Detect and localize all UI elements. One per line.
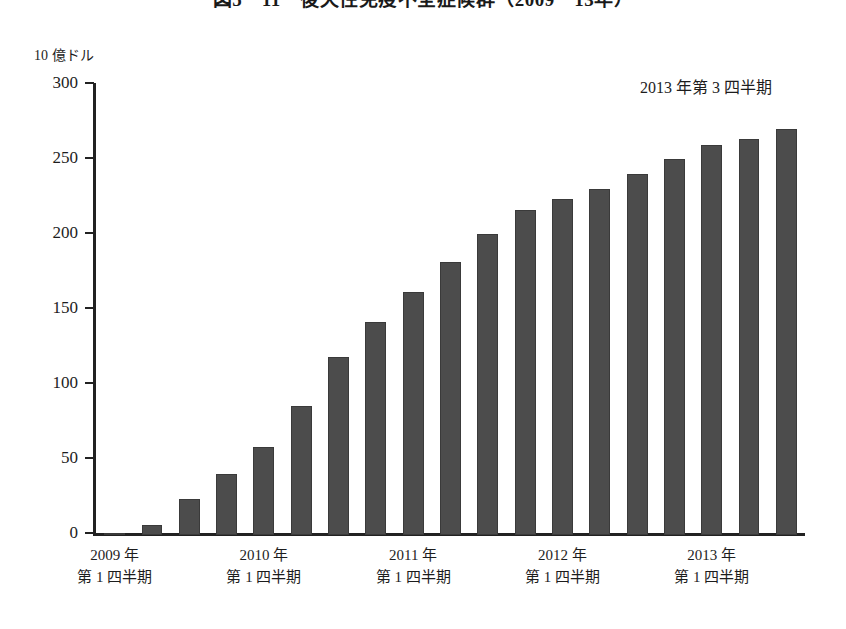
bar [515, 210, 536, 536]
bar-series [96, 83, 805, 535]
x-axis-group-label: 2010 年第 1 四半期 [189, 545, 339, 589]
y-axis-unit-label: 10 億ドル [34, 44, 94, 64]
y-axis-tick-label: 200 [16, 224, 78, 241]
bar [739, 139, 760, 535]
y-axis-tick-label: 300 [16, 74, 78, 91]
x-axis-year-label: 2011 年 [338, 545, 488, 567]
x-axis-year-label: 2010 年 [189, 545, 339, 567]
x-axis-quarter-label: 第 1 四半期 [40, 567, 190, 589]
annotation-last-quarter: 2013 年第 3 四半期 [640, 74, 772, 98]
x-axis-quarter-label: 第 1 四半期 [189, 567, 339, 589]
bar [440, 262, 461, 535]
bar [253, 447, 274, 536]
bar [142, 525, 163, 536]
y-axis-tick-label: 50 [16, 449, 78, 466]
x-axis-year-label: 2009 年 [40, 545, 190, 567]
chart-title: 図5－11 後天性免疫不全症候群（2009－13年） [0, 0, 846, 11]
x-axis-quarter-label: 第 1 四半期 [487, 567, 637, 589]
y-axis-tick-label: 250 [16, 149, 78, 166]
bar [701, 145, 722, 535]
bar [589, 189, 610, 536]
chart-figure: 図5－11 後天性免疫不全症候群（2009－13年） 10 億ドル 050100… [0, 0, 846, 629]
x-axis-group-label: 2009 年第 1 四半期 [40, 545, 190, 589]
x-axis-year-label: 2013 年 [637, 545, 787, 567]
bar [365, 322, 386, 535]
bar [627, 174, 648, 536]
x-axis-quarter-label: 第 1 四半期 [338, 567, 488, 589]
bar [477, 234, 498, 536]
y-axis-tick-label: 150 [16, 299, 78, 316]
y-axis-tick-label: 0 [16, 524, 78, 541]
bar [179, 499, 200, 535]
x-axis-group-label: 2013 年第 1 四半期 [637, 545, 787, 589]
x-axis-quarter-label: 第 1 四半期 [637, 567, 787, 589]
bar [104, 533, 125, 535]
bar [776, 129, 797, 536]
bar [403, 292, 424, 535]
bar [552, 199, 573, 535]
bar [216, 474, 237, 536]
y-axis-tick-label: 100 [16, 374, 78, 391]
bar [291, 406, 312, 535]
bar [328, 357, 349, 536]
x-axis-group-label: 2012 年第 1 四半期 [487, 545, 637, 589]
x-axis-group-label: 2011 年第 1 四半期 [338, 545, 488, 589]
x-axis-year-label: 2012 年 [487, 545, 637, 567]
bar [664, 159, 685, 536]
